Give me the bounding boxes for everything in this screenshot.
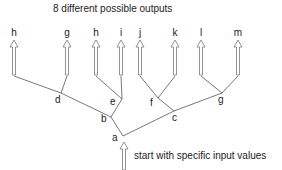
tree-edge [174,93,222,111]
up-arrow-icon [171,40,179,75]
tree-edge [158,76,175,98]
node-label-c: c [172,113,177,123]
up-arrow-icon [63,40,71,75]
up-arrow-icon [234,40,242,75]
node-label-f: f [150,98,153,108]
tree-edge [140,76,158,98]
node-label-d: d [55,95,61,105]
node-label-a: a [112,133,118,143]
output-arrows [10,40,242,75]
output-label-3: i [120,28,122,38]
tree-edge [121,76,122,99]
start-caption: start with specific input values [134,150,266,161]
output-label-7: m [234,28,242,38]
tree-edges [14,76,238,136]
node-label-e: e [110,97,116,107]
tree-diagram [0,0,282,170]
tree-edge [96,76,122,99]
up-arrow-icon [136,40,144,75]
up-arrow-icon [120,142,128,170]
up-arrow-icon [117,40,125,75]
start-arrow-icon [120,142,128,170]
output-label-4: j [139,28,141,38]
up-arrow-icon [197,40,205,75]
tree-edge [158,98,174,111]
output-label-2: h [93,28,99,38]
node-label-g: g [218,95,224,105]
tree-edge [201,76,222,93]
node-label-b: b [101,114,107,124]
tree-edge [222,76,238,93]
diagram-title: 8 different possible outputs [53,3,172,14]
tree-edge [61,76,67,93]
up-arrow-icon [10,40,18,75]
up-arrow-icon [92,40,100,75]
tree-edge [14,76,61,93]
output-label-0: h [11,28,17,38]
output-label-6: l [200,28,202,38]
tree-edge [123,111,174,136]
output-label-5: k [173,28,178,38]
output-label-1: g [64,28,70,38]
